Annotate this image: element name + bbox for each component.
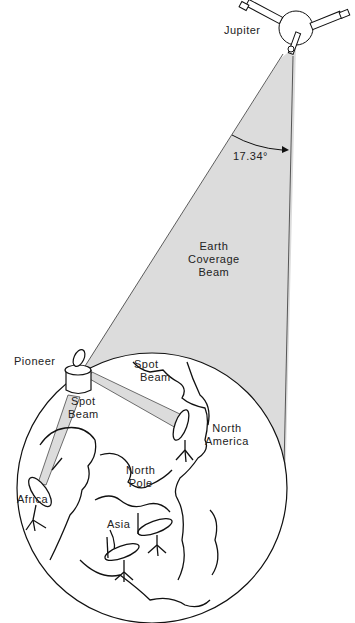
spot-beam-right-line1: Spot	[134, 358, 171, 371]
spot-beam-left-line2: Beam	[68, 408, 99, 421]
diagram-canvas	[0, 0, 355, 623]
north-america-line2: America	[205, 435, 249, 448]
label-spot-beam-left: Spot Beam	[68, 395, 99, 421]
earth-beam-line1: Earth	[188, 240, 240, 253]
pioneer-spacecraft-icon	[65, 348, 91, 394]
spot-beam-left-line1: Spot	[68, 395, 99, 408]
earth-beam-line3: Beam	[188, 266, 240, 279]
label-angle: 17.34°	[233, 150, 268, 163]
spot-beam-right-line2: Beam	[140, 371, 171, 384]
label-spot-beam-right: Spot Beam	[132, 358, 171, 384]
label-asia: Asia	[107, 518, 130, 531]
label-jupiter: Jupiter	[224, 24, 261, 37]
north-pole-line2: Pole	[126, 477, 155, 490]
label-earth-coverage-beam: Earth Coverage Beam	[188, 240, 240, 279]
label-pioneer: Pioneer	[14, 355, 55, 368]
earth-beam-line2: Coverage	[188, 253, 240, 266]
north-america-line1: North	[205, 422, 249, 435]
label-africa: Africa	[17, 493, 48, 506]
label-north-pole: North Pole	[126, 464, 155, 490]
label-north-america: North America	[205, 422, 249, 448]
north-pole-line1: North	[126, 464, 155, 477]
